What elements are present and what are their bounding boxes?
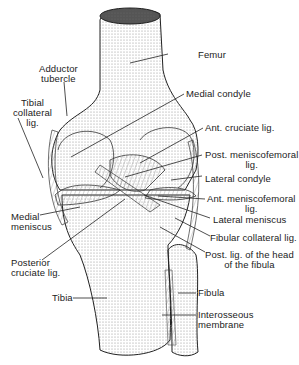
label-tibial-collateral-lig: Tibial collateral lig. <box>13 98 52 128</box>
label-medial-meniscus: Medial meniscus <box>11 212 52 232</box>
label-posterior-cruciate-lig: Posterior cruciate lig. <box>11 258 60 278</box>
label-line: lig. <box>13 118 52 128</box>
label-line: lig. <box>207 204 296 214</box>
label-post-meniscofemoral-lig: Post. meniscofemoral lig. <box>205 150 298 170</box>
label-ant-meniscofemoral-lig: Ant. meniscofemoral lig. <box>207 194 296 214</box>
label-adductor-tubercle: Adductor tubercle <box>39 64 78 84</box>
label-tibia: Tibia <box>52 293 73 303</box>
label-lateral-condyle: Lateral condyle <box>205 174 271 184</box>
label-ant-cruciate-lig: Ant. cruciate lig. <box>205 123 274 133</box>
label-femur: Femur <box>198 50 226 60</box>
label-line: cruciate lig. <box>11 268 60 278</box>
label-fibula: Fibula <box>198 288 224 298</box>
label-line: meniscus <box>11 222 52 232</box>
label-line: membrane <box>198 320 254 330</box>
label-line: of the fibula <box>205 260 294 270</box>
label-lateral-meniscus: Lateral meniscus <box>213 215 286 225</box>
label-fibular-collateral-lig: Fibular collateral lig. <box>210 233 297 243</box>
label-line: lig. <box>205 160 298 170</box>
knee-anatomy-figure: Femur Adductor tubercle Tibial collatera… <box>0 0 299 365</box>
label-post-lig-head-fibula: Post. lig. of the head of the fibula <box>205 250 294 270</box>
label-line: tubercle <box>39 74 78 84</box>
label-medial-condyle: Medial condyle <box>186 89 251 99</box>
label-interosseous-membrane: Interosseous membrane <box>198 310 254 330</box>
